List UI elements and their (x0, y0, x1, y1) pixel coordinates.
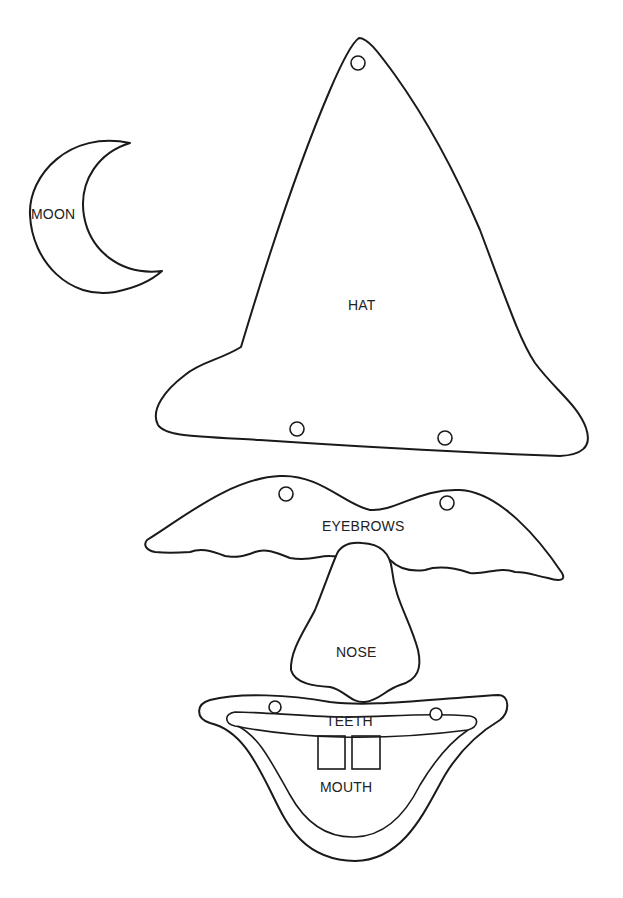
hat-hole-top (351, 56, 365, 70)
teeth-label: TEETH (326, 713, 373, 729)
mouth-label: MOUTH (320, 779, 372, 795)
hat-hole-left (290, 422, 304, 436)
moon-label: MOON (31, 206, 75, 222)
hat-hole-right (438, 431, 452, 445)
template-drawing (0, 0, 623, 898)
nose-label: NOSE (336, 644, 376, 660)
eyebrow-hole-right (440, 496, 454, 510)
hat-label: HAT (348, 297, 376, 313)
teeth-hole-right (430, 708, 442, 720)
hat-piece (156, 38, 588, 456)
eyebrow-hole-left (279, 487, 293, 501)
eyebrows-label: EYEBROWS (322, 518, 405, 534)
teeth-hole-left (269, 701, 281, 713)
